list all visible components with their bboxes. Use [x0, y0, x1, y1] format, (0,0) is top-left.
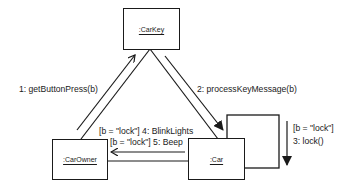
object-carowner[interactable]: :CarOwner [52, 139, 108, 180]
message-label-3-guard: [b = "lock"] [293, 123, 334, 134]
message-label-5: [b = "lock"] 5: Beep [110, 137, 183, 148]
object-car-name: :Car [210, 156, 223, 163]
message-label-1: 1: getButtonPress(b) [19, 84, 98, 95]
object-carkey[interactable]: :CarKey [123, 8, 180, 50]
message-label-4: [b = "lock"] 4: BlinkLights [99, 126, 193, 137]
object-car[interactable]: :Car [188, 138, 245, 180]
message-label-3: 3: lock() [293, 136, 324, 147]
object-carkey-name: :CarKey [139, 26, 164, 33]
object-carowner-name: :CarOwner [63, 156, 97, 163]
message-label-2: 2: processKeyMessage(b) [197, 84, 297, 95]
